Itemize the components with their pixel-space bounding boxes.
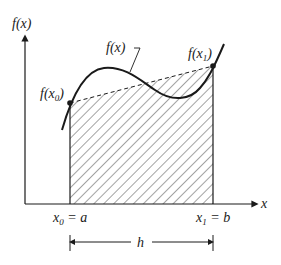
point-left-label: f(x0) [40,86,64,103]
width-label: h [137,235,144,250]
curve-label: f(x) [106,40,126,56]
point-f-x1 [210,63,216,69]
width-dimension: h [70,235,213,251]
point-f-x0 [67,100,73,106]
curve-label-leader [130,48,140,72]
y-axis-label: f(x) [12,16,32,32]
point-right-label: f(x1) [188,46,212,63]
x-axis-label: x [260,196,268,211]
trapezoid-rule-diagram: f(x) x f(x) f(x0) f(x1) x0 = a x1 = b h [0,0,281,265]
x1-label: x1 = b [195,210,230,227]
trapezoid-area [60,50,230,210]
x0-label: x0 = a [52,210,87,227]
